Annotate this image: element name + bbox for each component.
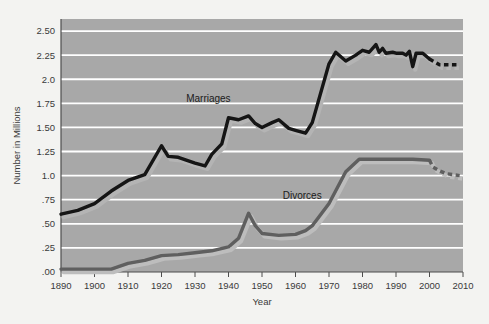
y-tick-label: .25 [42,242,55,253]
y-axis-title: Number in Millions [11,106,22,184]
series-label-marriages: Marriages [186,93,230,104]
x-tick-label: 1940 [218,280,239,291]
y-tick-label: .50 [42,218,55,229]
marriages-divorces-line-chart: .00.25.50.751.01.251.501.752.02.252.5018… [0,0,489,324]
y-tick-label: 1.25 [37,146,56,157]
x-tick-label: 1980 [352,280,373,291]
x-tick-label: 1950 [251,280,272,291]
y-tick-label: 1.50 [37,122,56,133]
y-tick-label: .00 [42,266,55,277]
series-label-divorces: Divorces [283,190,322,201]
y-tick-label: 2.25 [37,50,56,61]
x-tick-label: 1970 [318,280,339,291]
x-tick-label: 2000 [419,280,440,291]
x-tick-label: 1960 [285,280,306,291]
x-tick-label: 2010 [452,280,473,291]
y-tick-label: 2.50 [37,25,56,36]
x-tick-label: 1930 [184,280,205,291]
x-axis-title: Year [252,296,271,307]
y-tick-label: 1.0 [42,170,55,181]
x-tick-label: 1910 [117,280,138,291]
y-tick-label: .75 [42,194,55,205]
x-tick-label: 1990 [385,280,406,291]
chart-figure: .00.25.50.751.01.251.501.752.02.252.5018… [0,0,489,324]
y-tick-label: 1.75 [37,98,56,109]
x-tick-label: 1890 [50,280,71,291]
x-tick-label: 1920 [151,280,172,291]
y-tick-label: 2.0 [42,74,55,85]
x-tick-label: 1900 [84,280,105,291]
